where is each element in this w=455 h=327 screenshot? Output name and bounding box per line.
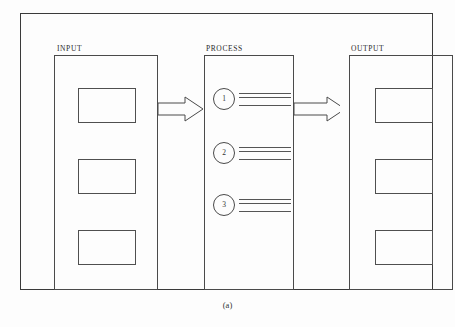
figure-outer-frame: INPUT PROCESS 1 2 [20,13,433,290]
rule-line [239,151,291,152]
process-step-3-rules [239,192,291,220]
process-step-3: 3 [213,192,293,222]
input-slot-2 [78,159,136,194]
stage-box-input [54,55,158,290]
stage-box-process: 1 2 3 [204,55,294,290]
output-slot-2 [375,159,433,194]
process-step-1-rules [239,86,291,114]
output-slot-1 [375,88,433,123]
process-step-1: 1 [213,86,293,116]
rule-line [239,97,291,98]
rule-line [239,105,291,106]
stage-label-process: PROCESS [206,45,243,53]
rule-line [239,147,291,148]
stage-box-output [349,55,453,290]
arrow-process-to-output [294,96,340,122]
input-slot-3 [78,230,136,265]
figure-root: INPUT PROCESS 1 2 [0,0,455,327]
rule-line [239,211,291,212]
process-step-3-number: 3 [213,194,235,216]
stage-label-input: INPUT [57,45,82,53]
rule-line [239,203,291,204]
process-step-2-rules [239,140,291,168]
figure-caption: (a) [0,300,455,310]
stage-label-output: OUTPUT [351,45,384,53]
rule-line [239,159,291,160]
rule-line [239,199,291,200]
arrow-input-to-process [158,96,204,122]
process-step-2: 2 [213,140,293,170]
rule-line [239,93,291,94]
process-step-1-number: 1 [213,88,235,110]
input-slot-1 [78,88,136,123]
output-slot-3 [375,230,433,265]
process-step-2-number: 2 [213,142,235,164]
